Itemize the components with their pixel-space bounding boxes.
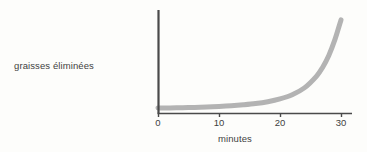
data-series-curve	[158, 20, 341, 108]
plot-area	[0, 0, 367, 152]
x-tick-label-10: 10	[207, 117, 231, 128]
x-tick-label-0: 0	[146, 117, 170, 128]
x-tick-label-20: 20	[268, 117, 292, 128]
x-tick-label-30: 30	[329, 117, 353, 128]
chart-figure: graisses éliminées 0 10 20 30 minutes	[0, 0, 367, 152]
x-axis-title: minutes	[218, 133, 252, 144]
